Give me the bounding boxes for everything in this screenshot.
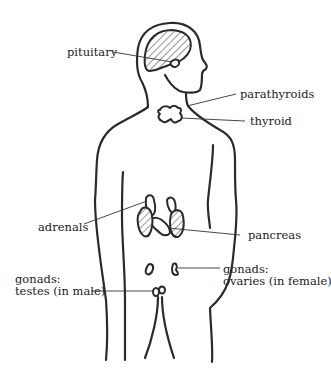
testes xyxy=(153,287,165,297)
label-gonads-male-2: testes (in male) xyxy=(15,284,105,298)
body-outline xyxy=(95,23,236,362)
left-ovary xyxy=(146,264,154,274)
left-arm-inner xyxy=(122,172,125,360)
label-parathyroids: parathyroids xyxy=(240,87,315,101)
label-gonads-female-2: ovaries (in female) xyxy=(223,274,331,288)
brain xyxy=(145,30,191,71)
endocrine-system-diagram: pituitary parathyroids thyroid adrenals … xyxy=(0,0,331,373)
neck-right-outline xyxy=(186,93,236,362)
legs-outline xyxy=(145,297,174,358)
parathyroids-leader xyxy=(187,94,236,106)
label-thyroid: thyroid xyxy=(250,114,293,128)
left-kidney xyxy=(138,208,153,237)
right-arm-inner xyxy=(208,145,213,228)
right-kidney xyxy=(170,210,184,237)
thyroid-gland xyxy=(158,106,182,123)
thyroid-leader xyxy=(181,118,245,121)
right-ovary xyxy=(172,263,178,275)
label-pancreas: pancreas xyxy=(248,228,301,242)
pituitary-gland xyxy=(171,60,180,67)
label-pituitary: pituitary xyxy=(67,45,118,59)
label-adrenals: adrenals xyxy=(38,220,88,234)
